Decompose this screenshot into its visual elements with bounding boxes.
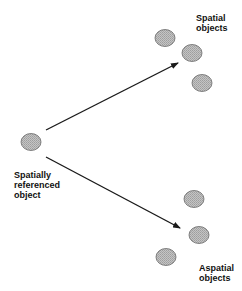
aspatial-objects-label: Aspatial objects [199, 263, 234, 283]
spatial-object-node [155, 30, 175, 47]
aspatial-object-node [156, 249, 176, 266]
aspatial-objects-group [156, 191, 209, 266]
spatial-object-node [182, 45, 202, 62]
label-line: Spatially [14, 170, 60, 180]
spatial-object-node [192, 75, 212, 92]
label-line: Aspatial [199, 263, 234, 273]
arrow-to-spatial-objects [46, 63, 178, 130]
spatial-objects-label: Spatial objects [196, 13, 228, 33]
label-line: objects [199, 273, 234, 283]
label-line: Spatial [196, 13, 228, 23]
aspatial-object-node [184, 191, 204, 208]
label-line: referenced [14, 180, 60, 190]
diagram-canvas [0, 0, 242, 291]
aspatial-object-node [189, 227, 209, 244]
spatially-referenced-object-node [21, 134, 41, 151]
label-line: objects [196, 23, 228, 33]
spatially-referenced-object-label: Spatially referenced object [14, 170, 60, 200]
spatial-objects-group [155, 30, 212, 92]
label-line: object [14, 190, 60, 200]
arrow-to-aspatial-objects [46, 157, 180, 228]
